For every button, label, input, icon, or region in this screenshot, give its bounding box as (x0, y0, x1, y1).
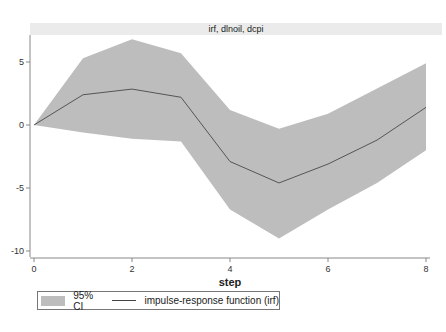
y-tick-label: -10 (11, 246, 24, 256)
x-axis-label: step (219, 276, 242, 288)
ci-swatch (41, 296, 65, 306)
plot-area (34, 39, 426, 238)
y-ticks: -10-505 (11, 57, 30, 256)
x-tick-label: 8 (423, 264, 428, 274)
x-tick-label: 4 (227, 264, 232, 274)
legend: 95% CI impulse-response function (irf) (37, 291, 280, 310)
legend-ci-label: 95% CI (73, 290, 93, 312)
x-tick-label: 0 (31, 264, 36, 274)
irf-line-swatch (112, 300, 136, 301)
x-tick-label: 2 (129, 264, 134, 274)
x-tick-label: 6 (325, 264, 330, 274)
y-tick-label: -5 (16, 183, 24, 193)
x-ticks: 02468 (31, 258, 428, 274)
y-tick-label: 0 (19, 120, 24, 130)
legend-irf-label: impulse-response function (irf) (144, 295, 279, 306)
irf-chart: irf, dlnoil, dcpi -10-505 02468 step (0, 0, 446, 332)
y-tick-label: 5 (19, 57, 24, 67)
chart-title: irf, dlnoil, dcpi (208, 24, 263, 34)
ci-band (34, 39, 426, 238)
